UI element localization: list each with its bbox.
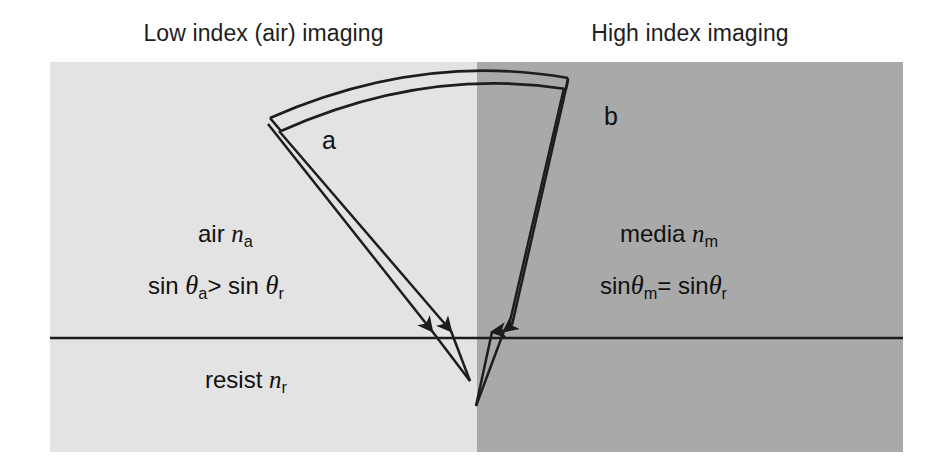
media-medium-name: media xyxy=(620,220,685,247)
theta-resist-air-side-subscript: r xyxy=(278,284,283,302)
relation-operator-air: > xyxy=(207,272,221,299)
media-index-subscript: m xyxy=(705,232,719,250)
formula-sine-air-vs-resist: sin θa> sin θr xyxy=(148,272,284,301)
theta-media: θ xyxy=(631,270,644,300)
resist-medium-name: resist xyxy=(205,366,262,393)
label-air-medium: air na xyxy=(198,222,253,249)
theta-air: θ xyxy=(185,270,198,300)
relation-operator-media: = xyxy=(657,272,671,299)
theta-resist-media-side-subscript: r xyxy=(722,284,727,302)
formula-sine-media-vs-resist: sinθm= sinθr xyxy=(600,272,727,301)
heading-low-index-imaging: Low index (air) imaging xyxy=(50,20,477,47)
air-medium-name: air xyxy=(198,220,225,247)
label-resist-medium: resist nr xyxy=(205,368,287,395)
media-index-symbol: n xyxy=(692,220,704,247)
heading-high-index-imaging: High index imaging xyxy=(477,20,903,47)
theta-media-subscript: m xyxy=(644,284,658,302)
panel-letter-b: b xyxy=(604,104,618,129)
resist-index-subscript: r xyxy=(282,378,287,396)
air-index-subscript: a xyxy=(244,232,253,250)
sin-prefix-media-left: sin xyxy=(600,272,631,299)
label-media-medium: media nm xyxy=(620,222,718,249)
theta-resist-air-side: θ xyxy=(265,270,278,300)
sin-prefix-media-right: sin xyxy=(678,272,709,299)
resist-index-symbol: n xyxy=(269,366,281,393)
theta-resist-media-side: θ xyxy=(709,270,722,300)
sin-prefix-air-right: sin xyxy=(228,272,259,299)
panel-letter-a: a xyxy=(322,128,336,153)
immersion-imaging-figure: Low index (air) imaging High index imagi… xyxy=(0,0,941,472)
sin-prefix-air-left: sin xyxy=(148,272,179,299)
air-index-symbol: n xyxy=(231,220,243,247)
panel-high-index xyxy=(477,62,903,452)
